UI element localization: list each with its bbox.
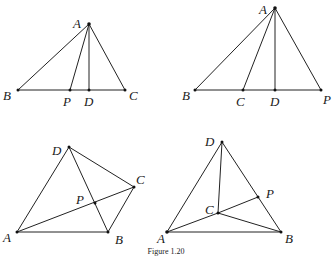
label-a: A (72, 16, 81, 31)
label-b: B (285, 231, 293, 246)
label-c: C (129, 88, 138, 103)
label-p: P (62, 94, 71, 109)
label-b: B (3, 88, 11, 103)
quadrilateral-figure-bottom-left: D C P A B (2, 143, 145, 247)
label-d: D (204, 134, 215, 149)
label-b: B (182, 88, 190, 103)
label-b: B (115, 232, 123, 247)
label-p: P (265, 186, 274, 201)
figure-caption: Figure 1.20 (148, 247, 185, 256)
triangle-figure-bottom-right: D P C A B (156, 134, 293, 246)
label-p: P (75, 192, 84, 207)
label-a: A (156, 231, 165, 246)
label-d: D (83, 94, 94, 109)
label-p: P (322, 92, 331, 107)
label-c: C (236, 94, 245, 109)
label-d: D (51, 143, 62, 158)
triangle-figure-top-left: A B P D C (3, 16, 138, 109)
label-a: A (2, 230, 11, 245)
triangle-figure-top-right: A B C D P (182, 2, 331, 109)
figure-1-20: A B P D C A B C D P D C P (0, 0, 333, 256)
label-d: D (269, 94, 280, 109)
label-c: C (205, 202, 214, 217)
label-a: A (258, 2, 267, 17)
label-c: C (136, 172, 145, 187)
